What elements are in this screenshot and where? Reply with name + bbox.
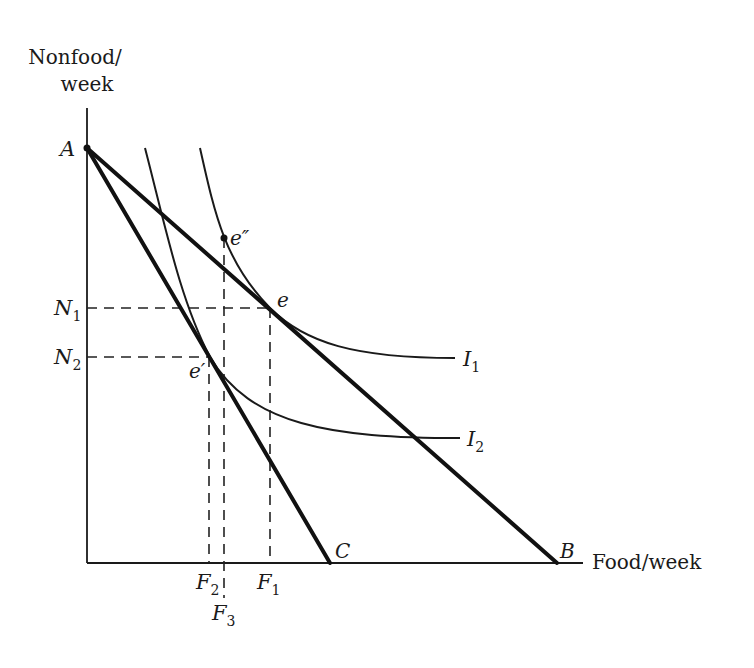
n2-label: N2 xyxy=(53,345,81,373)
f3-label: F3 xyxy=(211,601,236,629)
point-e-double-prime-label: e″ xyxy=(230,226,250,250)
i2-label: I2 xyxy=(466,427,484,455)
y-axis-label-line2: week xyxy=(61,72,115,96)
f1-label: F1 xyxy=(256,570,281,598)
indifference-curve-i2 xyxy=(145,148,460,438)
point-e-label: e xyxy=(277,288,289,312)
point-a-label: A xyxy=(58,137,75,161)
f2-label: F2 xyxy=(195,570,220,598)
point-a-marker xyxy=(84,145,91,152)
indifference-curve-i1 xyxy=(200,148,455,358)
point-e-prime-label: e′ xyxy=(189,359,206,383)
budget-line-ab xyxy=(87,148,557,563)
n1-label: N1 xyxy=(53,296,81,324)
point-c-label: C xyxy=(335,539,350,563)
point-b-label: B xyxy=(559,539,575,563)
point-e-double-prime-marker xyxy=(221,235,228,242)
y-axis-label-line1: Nonfood/ xyxy=(28,45,122,69)
i1-label: I1 xyxy=(462,347,480,375)
x-axis-label: Food/week xyxy=(592,550,702,574)
consumer-choice-diagram: Nonfood/ week Food/week A B C e e′ e″ I1… xyxy=(0,0,754,668)
